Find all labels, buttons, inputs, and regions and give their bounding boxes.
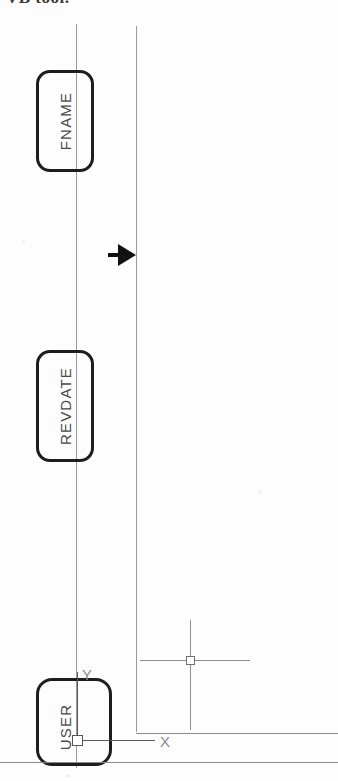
attribute-box-fname[interactable]: FNAME	[36, 70, 94, 172]
cad-drawing-canvas: VB tool. FNAME REVDATE USER Y X	[0, 0, 338, 781]
ucs-x-axis-label: X	[160, 733, 170, 750]
scan-speck	[22, 240, 25, 243]
drawing-rule-upper	[136, 733, 338, 734]
attribute-label-user: USER	[57, 704, 74, 750]
attribute-box-user[interactable]: USER	[36, 678, 112, 766]
attribute-box-revdate[interactable]: REVDATE	[36, 350, 94, 462]
attribute-label-revdate: REVDATE	[57, 367, 74, 445]
cropped-caption-text: VB tool.	[6, 0, 136, 8]
crosshair-horizontal-line	[140, 660, 250, 661]
ucs-y-axis-line	[77, 672, 78, 736]
scan-speck	[258, 490, 261, 493]
ucs-y-axis-label: Y	[82, 666, 92, 683]
attribute-label-fname: FNAME	[57, 92, 74, 151]
ucs-x-axis-line	[83, 740, 155, 741]
scan-speck	[66, 774, 70, 777]
crosshair-vertical-line	[190, 620, 191, 730]
construction-line-right	[136, 26, 137, 732]
drawing-rule-lower	[0, 762, 338, 763]
pickbox-icon[interactable]	[186, 656, 195, 665]
selection-arrow-icon[interactable]	[118, 244, 136, 266]
ucs-origin-square-icon	[72, 735, 83, 746]
